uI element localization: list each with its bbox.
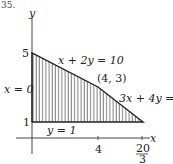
x-axis-label: x xyxy=(150,132,157,145)
problem-number: 35. xyxy=(1,0,15,10)
y-tick-label-1: 1 xyxy=(23,116,30,129)
line-label-3x-4y-24: 3x + 4y = 24 xyxy=(119,92,173,105)
y-tick-label-5: 5 xyxy=(22,47,29,60)
x-tick-label-den: 3 xyxy=(139,153,146,164)
line-label-x-2y-10: x + 2y = 10 xyxy=(58,54,124,67)
vertex-label: (4, 3) xyxy=(97,72,127,85)
feasible-region-chart: 35. y x 4 20 3 5 1 x + 2y = 10 (4, 3) 3x… xyxy=(0,0,173,164)
x-tick-label-4: 4 xyxy=(95,143,102,156)
line-label-y-1: y = 1 xyxy=(46,124,76,137)
line-label-x-0: x = 0 xyxy=(4,83,33,96)
y-axis-label: y xyxy=(28,7,36,20)
